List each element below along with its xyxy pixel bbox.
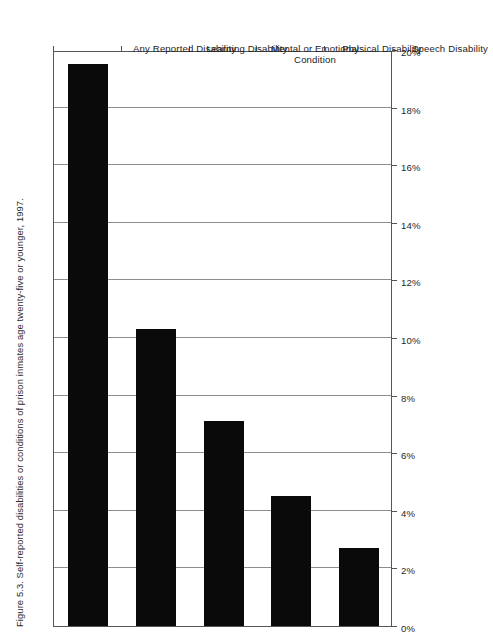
value-tick-label: 4%: [401, 507, 415, 518]
value-tick-label: 8%: [401, 392, 415, 403]
tick-6%: [392, 453, 397, 454]
value-tick-label: 2%: [401, 565, 415, 576]
tick-0%: [392, 626, 397, 627]
bar-chart: 0%2%4%6%8%10%12%14%16%18%20% Any Reporte…: [31, 12, 376, 627]
value-tick-label: 6%: [401, 450, 415, 461]
value-tick-label: 18%: [401, 104, 421, 115]
category-label: Speech Disability: [404, 43, 493, 54]
bar: [271, 496, 311, 626]
bar: [203, 421, 243, 626]
bar: [67, 64, 107, 626]
tick-4%: [392, 510, 397, 511]
value-tick-label: 16%: [401, 162, 421, 173]
tick-12%: [392, 280, 397, 281]
category-tick: [53, 46, 54, 51]
value-tick-label: 10%: [401, 335, 421, 346]
tick-16%: [392, 165, 397, 166]
tick-10%: [392, 338, 397, 339]
tick-18%: [392, 107, 397, 108]
plot-area: [53, 51, 392, 627]
value-tick-label: 0%: [401, 623, 415, 634]
figure-title: Figure 5.3. Self-reported disabilities o…: [12, 0, 28, 627]
value-tick-label: 14%: [401, 219, 421, 230]
category-tick: [120, 46, 121, 51]
tick-2%: [392, 568, 397, 569]
value-tick-label: 12%: [401, 277, 421, 288]
tick-8%: [392, 395, 397, 396]
bar: [339, 548, 379, 626]
tick-14%: [392, 222, 397, 223]
bar: [135, 329, 175, 626]
